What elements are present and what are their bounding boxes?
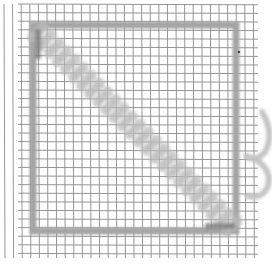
- ink-mark: [238, 51, 240, 53]
- grid-drawing: [0, 0, 274, 268]
